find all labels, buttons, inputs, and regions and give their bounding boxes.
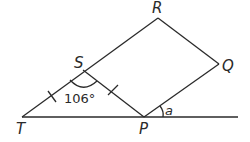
angle-label-106: 106°	[64, 91, 95, 106]
line-rq	[158, 18, 219, 64]
label-t: T	[16, 120, 27, 138]
angle-arc-s	[70, 80, 97, 87]
diagram-svg: R Q S T P 106° a	[0, 0, 250, 142]
line-qp	[144, 64, 219, 117]
label-r: R	[152, 0, 162, 17]
label-q: Q	[222, 57, 234, 75]
label-p: P	[139, 120, 149, 138]
geometry-diagram: R Q S T P 106° a	[0, 0, 250, 142]
label-s: S	[74, 54, 84, 72]
angle-arc-p	[160, 106, 163, 117]
angle-label-a: a	[165, 103, 173, 118]
